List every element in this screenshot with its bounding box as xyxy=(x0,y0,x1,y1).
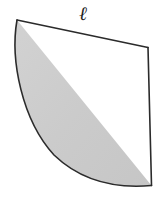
arc-length-label: ℓ xyxy=(70,1,96,27)
sector-region xyxy=(15,20,151,186)
circular-sector-diagram xyxy=(0,0,166,208)
figure-canvas: ℓ xyxy=(0,0,166,208)
radius-right-edge xyxy=(148,48,152,186)
